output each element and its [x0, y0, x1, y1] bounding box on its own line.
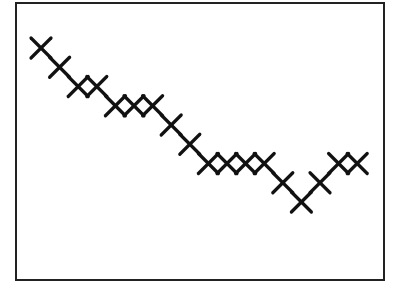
x-marker-icon [87, 77, 107, 97]
x-marker-icon [68, 77, 88, 97]
x-marker-icon [236, 154, 256, 174]
x-marker-icon [143, 96, 163, 116]
x-marker-icon [180, 134, 200, 154]
x-marker-icon [310, 173, 330, 193]
x-marker-icon [329, 154, 349, 174]
x-marker-icon [50, 57, 70, 77]
x-marker-icon [291, 192, 311, 212]
x-marker-icon [254, 154, 274, 174]
x-marker-icon [198, 154, 218, 174]
marker-connectors [50, 57, 330, 193]
x-marker-icon [31, 38, 51, 58]
x-marker-icon [105, 96, 125, 116]
data-markers [31, 38, 367, 212]
x-marker-icon [124, 96, 144, 116]
x-marker-icon [347, 154, 367, 174]
scatter-chart [0, 0, 399, 301]
x-marker-icon [161, 115, 181, 135]
x-marker-icon [273, 173, 293, 193]
x-marker-icon [217, 154, 237, 174]
plot-frame [16, 3, 384, 280]
